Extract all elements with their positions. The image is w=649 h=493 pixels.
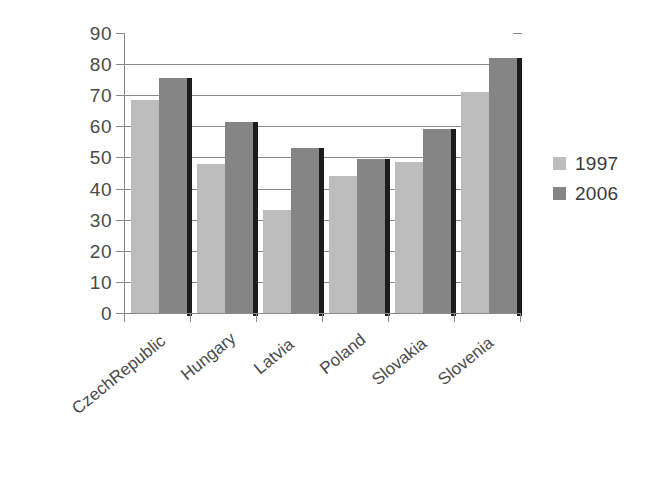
legend-label: 2006 [575, 184, 618, 203]
y-axis-tick-label: 60 [60, 117, 112, 136]
bar-group [190, 33, 256, 313]
bar-body [489, 58, 517, 313]
chart-legend: 19972006 [553, 148, 649, 208]
y-axis-tick-label: 70 [60, 86, 112, 105]
bar [461, 92, 489, 313]
bar [395, 162, 423, 313]
bar-body [357, 159, 385, 313]
bar-chart: 0102030405060708090 CzechRepublicHungary… [0, 0, 649, 493]
legend-swatch-icon [553, 157, 566, 170]
y-axis-tick-label: 30 [60, 211, 112, 230]
x-axis-category-label: Hungary [178, 329, 239, 383]
legend-label: 1997 [575, 154, 618, 173]
x-axis-category-label: Slovakia [369, 335, 430, 389]
bar [489, 58, 517, 313]
legend-swatch-icon [553, 187, 566, 200]
bar-shadow [517, 58, 522, 316]
bar [225, 122, 253, 313]
y-axis-tick-label: 90 [60, 24, 112, 43]
bar-body [291, 148, 319, 313]
legend-item[interactable]: 2006 [553, 178, 649, 208]
bar-body [329, 176, 357, 313]
bar [423, 129, 451, 313]
bar-group [454, 33, 520, 313]
y-axis-tick-label: 10 [60, 273, 112, 292]
x-axis-category-label: Latvia [251, 335, 297, 377]
bar [291, 148, 319, 313]
bar [357, 159, 385, 313]
bar-group [388, 33, 454, 313]
bar [263, 210, 291, 313]
bar-body [423, 129, 451, 313]
x-axis-category-label: CzechRepublic [69, 332, 169, 417]
bar-group [256, 33, 322, 313]
y-axis-tick-label: 50 [60, 148, 112, 167]
bar [329, 176, 357, 313]
bar-body [159, 78, 187, 313]
y-axis-tick-label: 40 [60, 180, 112, 199]
plot-area [124, 33, 520, 313]
bar-body [225, 122, 253, 313]
bar-body [395, 162, 423, 313]
y-axis-tick-label: 80 [60, 55, 112, 74]
bar [197, 164, 225, 313]
bar-body [461, 92, 489, 313]
x-axis-category-label: Poland [317, 330, 369, 377]
legend-item[interactable]: 1997 [553, 148, 649, 178]
bar-body [131, 100, 159, 313]
bar-group [124, 33, 190, 313]
x-axis-labels: CzechRepublicHungaryLatviaPolandSlovakia… [0, 313, 649, 473]
x-axis-category-label: Slovenia [435, 334, 496, 388]
bar-group [322, 33, 388, 313]
bar [159, 78, 187, 313]
bar-body [197, 164, 225, 313]
y-axis-tick-label: 20 [60, 242, 112, 261]
bar-body [263, 210, 291, 313]
bar [131, 100, 159, 313]
y-axis-line [124, 33, 125, 314]
